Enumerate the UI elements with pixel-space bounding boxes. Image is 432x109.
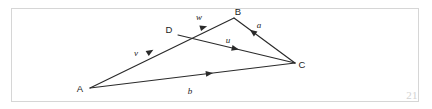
arrowhead-v	[146, 50, 154, 56]
vector-label-u: u	[226, 35, 231, 45]
edge-ac	[90, 63, 295, 88]
vector-label-v: v	[134, 48, 138, 58]
edges-group	[90, 18, 295, 88]
edge-ab	[90, 18, 234, 88]
arrowhead-w	[199, 25, 207, 31]
arrowhead-u	[231, 45, 239, 51]
vector-triangle-diagram: vwuab ABCD	[0, 0, 432, 109]
vector-label-b: b	[188, 86, 193, 96]
page-number: 21	[406, 89, 418, 101]
vertex-labels-group: ABCD	[77, 6, 306, 94]
vertex-label-c: C	[299, 59, 306, 70]
vertex-label-d: D	[166, 24, 173, 35]
arrowhead-b	[205, 71, 213, 77]
vertex-label-b: B	[235, 6, 241, 17]
vector-label-w: w	[196, 12, 202, 22]
vertex-label-a: A	[77, 83, 84, 94]
vector-label-a: a	[257, 20, 262, 30]
arrowhead-a	[250, 30, 258, 37]
